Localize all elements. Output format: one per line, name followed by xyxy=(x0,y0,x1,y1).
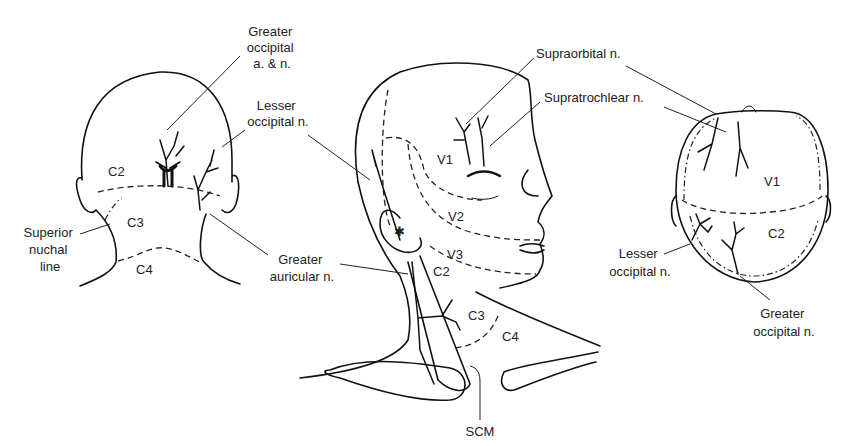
superior-inner-boundary xyxy=(684,116,820,276)
lateral-region-c4: C4 xyxy=(502,329,519,344)
lateral-scm-pointer xyxy=(470,366,480,420)
lateral-supratrochlear-nerve xyxy=(478,116,488,166)
leader-supratrochlear-superior xyxy=(664,107,726,132)
leader-greater-auricular-posterior xyxy=(210,214,268,255)
leader-lesser-occipital-lateral xyxy=(308,135,370,180)
leader-greater-occipital-superior xyxy=(740,276,770,300)
superior-head-view: V1 C2 Lesser occipital n. Greater occipi… xyxy=(609,106,830,339)
posterior-greater-occipital-nerve xyxy=(156,132,184,186)
superior-forehead-nerves xyxy=(698,118,748,176)
label-greater-occipital-an: Greater occipital a. & n. xyxy=(247,24,298,71)
label-lesser-occipital-posterior: Lesser occipital n. xyxy=(247,98,308,129)
posterior-right-ear xyxy=(222,175,239,212)
label-lesser-occipital-superior: Lesser occipital n. xyxy=(609,246,670,279)
label-scm: SCM xyxy=(466,424,495,439)
posterior-region-c2: C2 xyxy=(108,164,125,179)
superior-region-c2: C2 xyxy=(768,226,785,241)
lateral-head-view: ✱ V1 V2 V3 C2 C3 C4 Supraorbital n. xyxy=(300,46,726,439)
leader-greater-occipital xyxy=(167,56,240,130)
superior-lesser-occipital-nerve xyxy=(692,214,712,240)
lateral-region-v1: V1 xyxy=(437,152,453,167)
lateral-region-c2: C2 xyxy=(433,264,450,279)
label-supratrochlear: Supratrochlear n. xyxy=(544,90,644,105)
lateral-v1-v2-boundary xyxy=(386,137,482,200)
posterior-region-c3: C3 xyxy=(127,215,144,230)
lateral-region-v2: V2 xyxy=(448,209,464,224)
posterior-region-c4: C4 xyxy=(136,262,153,277)
superior-v1-c2-boundary xyxy=(682,196,822,214)
superior-left-ear xyxy=(672,196,677,226)
label-greater-auricular: Greater auricular n. xyxy=(270,252,334,284)
posterior-lesser-occipital-nerve xyxy=(194,150,218,210)
lateral-neck-front xyxy=(476,292,600,346)
posterior-c3-inner-boundary xyxy=(105,198,122,220)
posterior-neck-right xyxy=(200,214,240,284)
superior-skull-outline xyxy=(676,111,828,282)
superior-greater-occipital-nerve xyxy=(722,222,744,274)
lateral-lesser-occipital-nerve xyxy=(372,150,400,240)
lateral-v2-v3-boundary xyxy=(408,144,540,240)
posterior-c3-c4-boundary xyxy=(118,248,200,262)
superior-region-v1: V1 xyxy=(764,174,780,189)
label-greater-occipital-superior: Greater occipital n. xyxy=(753,306,814,339)
leader-greater-auricular-lateral xyxy=(340,264,408,274)
posterior-c2-c3-boundary xyxy=(98,186,220,196)
leader-lesser-occipital-posterior xyxy=(222,130,245,147)
lateral-eye xyxy=(472,196,498,199)
lateral-region-v3: V3 xyxy=(447,247,463,262)
lateral-right-clavicle xyxy=(502,352,598,390)
lateral-region-c3: C3 xyxy=(468,308,485,323)
lateral-nose xyxy=(522,170,538,196)
anatomy-figure: C2 C3 C4 Greater occipital a. & n. Lesse… xyxy=(0,0,844,446)
posterior-left-ear xyxy=(77,178,97,213)
leader-lesser-occipital-superior xyxy=(664,244,690,254)
posterior-head-view: C2 C3 C4 Greater occipital a. & n. Lesse… xyxy=(24,24,335,286)
lateral-left-clavicle xyxy=(325,362,465,401)
lateral-supraorbital-nerve xyxy=(454,118,470,164)
posterior-neck-left xyxy=(80,210,116,286)
lateral-brow xyxy=(468,172,500,177)
label-supraorbital: Supraorbital n. xyxy=(536,46,621,61)
lateral-mouth xyxy=(520,244,544,253)
leader-superior-nuchal xyxy=(80,224,110,234)
label-superior-nuchal-line: Superior nuchal line xyxy=(24,225,77,274)
